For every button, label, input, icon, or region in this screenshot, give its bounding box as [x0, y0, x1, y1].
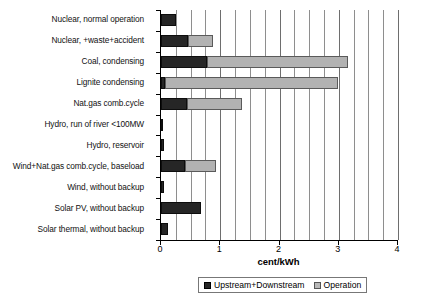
bar-segment-upstream	[161, 35, 188, 47]
legend-swatch-upstream-icon	[204, 282, 211, 289]
category-label: Hydro, run of river <100MW	[44, 120, 144, 129]
bar-row	[161, 52, 398, 73]
bar-segment-upstream	[161, 98, 187, 110]
bar-segment-upstream	[161, 202, 201, 214]
legend-swatch-operation-icon	[314, 282, 321, 289]
plot-area	[160, 10, 398, 241]
bar-row	[161, 94, 398, 115]
bar-segment-upstream	[161, 223, 168, 235]
category-label: Hydro, reservoir	[87, 141, 144, 150]
bar-row	[161, 198, 398, 219]
category-label: Solar PV, without backup	[54, 204, 144, 213]
category-label: Wind, without backup	[67, 183, 144, 192]
bar-segment-operation	[188, 35, 213, 47]
bar-row	[161, 156, 398, 177]
gridline	[398, 10, 399, 240]
x-axis-tick-label: 3	[335, 244, 340, 254]
category-label: Lignite condensing	[77, 78, 144, 87]
bar-row	[161, 115, 398, 136]
category-label: Nat.gas comb.cycle	[73, 99, 144, 108]
category-label: Coal, condensing	[81, 57, 144, 66]
category-label: Wind+Nat.gas comb.cycle, baseload	[13, 162, 144, 171]
x-axis-tick-label: 4	[394, 244, 399, 254]
bar-segment-upstream	[161, 14, 176, 26]
x-axis-title: cent/kWh	[160, 256, 397, 267]
bar-segment-operation	[185, 160, 216, 172]
legend-label-operation: Operation	[324, 280, 362, 290]
legend-label-upstream: Upstream+Downstream	[214, 280, 305, 290]
bars-layer	[161, 10, 398, 240]
bar-row	[161, 10, 398, 31]
bar-segment-operation	[187, 98, 242, 110]
category-label: Nuclear, normal operation	[51, 15, 144, 24]
bar-segment-upstream	[161, 160, 185, 172]
x-axis-tick-label: 1	[217, 244, 222, 254]
x-axis-tick-label: 0	[157, 244, 162, 254]
stacked-bar-chart: Nuclear, normal operationNuclear, +waste…	[0, 0, 421, 297]
bar-segment-operation	[207, 56, 347, 68]
bar-row	[161, 219, 398, 240]
category-label: Nuclear, +waste+accident	[51, 36, 144, 45]
bar-row	[161, 31, 398, 52]
category-axis: Nuclear, normal operationNuclear, +waste…	[0, 10, 150, 240]
bar-segment-upstream	[161, 119, 163, 131]
bar-segment-upstream	[161, 181, 164, 193]
legend-item-upstream: Upstream+Downstream	[204, 280, 305, 290]
bar-segment-upstream	[161, 56, 207, 68]
x-axis-tick-label: 2	[276, 244, 281, 254]
bar-row	[161, 135, 398, 156]
chart-legend: Upstream+Downstream Operation	[198, 277, 367, 293]
bar-row	[161, 73, 398, 94]
bar-row	[161, 177, 398, 198]
bar-segment-operation	[165, 77, 337, 89]
category-label: Solar thermal, without backup	[38, 225, 144, 234]
legend-item-operation: Operation	[314, 280, 362, 290]
bar-segment-upstream	[161, 139, 164, 151]
